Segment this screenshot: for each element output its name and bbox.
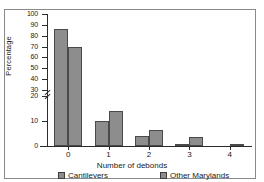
legend-swatch-icon <box>160 172 167 179</box>
y-tick-label: 100 <box>16 10 38 17</box>
bar-other-marylands-4 <box>230 144 244 147</box>
y-axis-title: Percentage <box>5 21 13 91</box>
bar-other-marylands-3 <box>189 137 203 146</box>
chart-legend: Cantilevers Other Marylands <box>0 170 264 182</box>
legend-item-other-marylands: Other Marylands <box>160 171 229 180</box>
x-tick-label: 1 <box>99 150 119 159</box>
y-tick <box>42 68 47 69</box>
bar-cantilevers-3 <box>175 144 189 147</box>
legend-label: Other Marylands <box>170 171 229 180</box>
x-tick-label: 3 <box>179 150 199 159</box>
y-tick <box>42 121 47 122</box>
x-tick-label: 2 <box>139 150 159 159</box>
y-tick-label: 30 <box>16 86 38 93</box>
y-tick <box>42 90 47 91</box>
bar-other-marylands-1 <box>109 111 123 146</box>
legend-item-cantilevers: Cantilevers <box>58 171 108 180</box>
y-tick <box>42 47 47 48</box>
bar-cantilevers-2 <box>135 136 149 146</box>
y-tick-label: 20 <box>16 92 38 99</box>
x-tick-label: 0 <box>58 150 78 159</box>
x-tick-label: 4 <box>220 150 240 159</box>
y-tick-label: 10 <box>16 117 38 124</box>
chart-figure: Percentage 0102030405060708090100 01234 … <box>0 0 264 182</box>
legend-label: Cantilevers <box>68 171 108 180</box>
bar-other-marylands-2 <box>149 130 163 146</box>
y-tick-label: 40 <box>16 75 38 82</box>
y-tick <box>42 57 47 58</box>
bar-cantilevers-0 <box>54 29 68 146</box>
bar-cantilevers-1 <box>95 121 109 146</box>
bar-other-marylands-0 <box>68 47 82 146</box>
legend-swatch-icon <box>58 172 65 179</box>
y-tick-label: 60 <box>16 53 38 60</box>
y-tick-label: 70 <box>16 43 38 50</box>
y-tick <box>42 14 47 15</box>
plot-area <box>48 14 250 146</box>
y-tick <box>42 146 47 147</box>
y-tick-label: 0 <box>16 142 38 149</box>
x-axis-line <box>40 146 252 147</box>
x-axis-title: Number of debonds <box>0 161 264 170</box>
y-tick <box>42 25 47 26</box>
y-tick-label: 90 <box>16 21 38 28</box>
y-tick <box>42 36 47 37</box>
y-tick-label: 50 <box>16 64 38 71</box>
y-tick <box>42 79 47 80</box>
y-tick-label: 80 <box>16 32 38 39</box>
